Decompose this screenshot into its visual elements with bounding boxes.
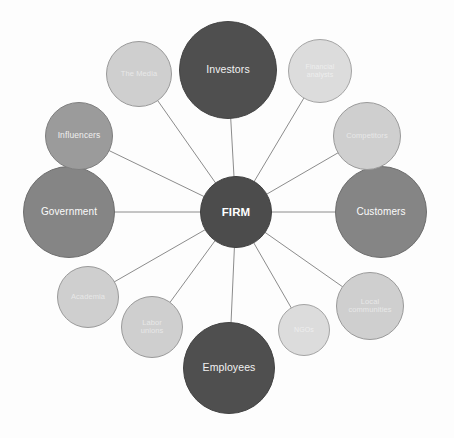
edge-firm-to-employees xyxy=(231,247,234,323)
node-label-employees: Employees xyxy=(199,362,260,374)
stakeholder-node-influencers[interactable]: Influencers xyxy=(45,102,113,170)
stakeholder-diagram: InvestorsEmployeesCustomersGovernmentInf… xyxy=(0,0,454,438)
stakeholder-node-competitors[interactable]: Competitors xyxy=(333,102,401,170)
stakeholder-node-government[interactable]: Government xyxy=(23,166,115,258)
edge-firm-to-academia xyxy=(114,229,206,282)
edge-firm-to-investors xyxy=(231,118,234,177)
edge-firm-to-local-communities xyxy=(265,232,343,287)
hub-node-firm[interactable]: FIRM xyxy=(200,176,272,248)
node-label-academia: Academia xyxy=(67,293,109,301)
edge-firm-to-labor-unions xyxy=(170,240,216,303)
node-label-influencers: Influencers xyxy=(54,131,105,141)
edge-firm-to-influencers xyxy=(109,150,205,196)
stakeholder-node-labor-unions[interactable]: Labor unions xyxy=(121,296,183,358)
stakeholder-node-financial-analysts[interactable]: Financial analysts xyxy=(288,39,352,103)
stakeholder-node-customers[interactable]: Customers xyxy=(335,166,427,258)
node-label-government: Government xyxy=(37,206,101,217)
node-label-firm: FIRM xyxy=(218,206,255,219)
stakeholder-node-local-communities[interactable]: Local communities xyxy=(336,272,404,340)
node-label-financial-analysts: Financial analysts xyxy=(302,63,339,79)
node-label-competitors: Competitors xyxy=(342,132,392,140)
edge-firm-to-ngos xyxy=(253,242,291,308)
node-label-labor-unions: Labor unions xyxy=(137,319,168,336)
stakeholder-node-investors[interactable]: Investors xyxy=(179,21,277,119)
stakeholder-node-academia[interactable]: Academia xyxy=(57,266,119,328)
node-label-customers: Customers xyxy=(352,206,409,217)
edge-firm-to-competitors xyxy=(266,153,338,195)
node-label-investors: Investors xyxy=(202,64,254,76)
node-label-ngos: NGOs xyxy=(290,326,318,334)
stakeholder-node-ngos[interactable]: NGOs xyxy=(278,304,330,356)
stakeholder-node-the-media[interactable]: The Media xyxy=(106,41,172,107)
edge-firm-to-financial-analysts xyxy=(254,98,304,182)
stakeholder-node-employees[interactable]: Employees xyxy=(183,322,275,414)
node-label-local-communities: Local communities xyxy=(344,298,395,315)
node-label-the-media: The Media xyxy=(117,70,161,78)
